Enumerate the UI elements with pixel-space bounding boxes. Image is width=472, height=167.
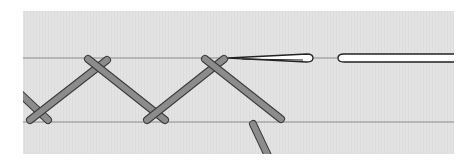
herringbone-stitch-illustration [0,0,472,167]
stitch-diagram [0,0,472,167]
needle-shaft [338,54,454,62]
